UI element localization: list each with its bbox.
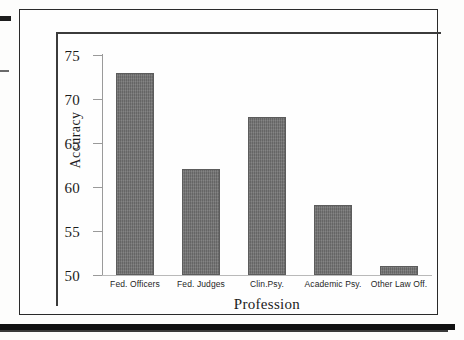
- bar-fed-judges[interactable]: [182, 169, 220, 275]
- bar-slot: Academic Psy.: [300, 55, 366, 275]
- scan-artifact-mark-top: [0, 16, 11, 21]
- bar-slot: Other Law Off.: [366, 55, 432, 275]
- figure-frame: Accuracy 75 70 65 60 55 50 Fed. Officers: [19, 9, 438, 315]
- y-tick-label-50: 50: [64, 267, 80, 284]
- scan-artifact-mark-middle: [0, 70, 9, 72]
- bar-fed-officers[interactable]: [116, 73, 154, 275]
- bar-slot: Clin.Psy.: [234, 55, 300, 275]
- bars-layer: Fed. Officers Fed. Judges Clin.Psy. Acad…: [102, 55, 432, 275]
- bar-slot: Fed. Officers: [102, 55, 168, 275]
- y-tick-60: 60: [93, 187, 102, 188]
- axis-stub-artifact: [56, 290, 58, 306]
- plot-frame-left-rule: [56, 32, 58, 306]
- bar-clin-psy[interactable]: [248, 117, 286, 275]
- x-tick-label-other-law-off: Other Law Off.: [371, 279, 428, 289]
- bar-other-law-off[interactable]: [380, 266, 418, 275]
- plot-frame-top-rule: [56, 32, 441, 34]
- y-tick-label-65: 65: [64, 135, 80, 152]
- bar-slot: Fed. Judges: [168, 55, 234, 275]
- y-tick-75: 75: [93, 55, 102, 56]
- y-tick-label-55: 55: [64, 223, 80, 240]
- x-tick-label-clin-psy: Clin.Psy.: [250, 279, 284, 289]
- x-tick-label-fed-judges: Fed. Judges: [177, 279, 225, 289]
- x-tick-label-academic-psy: Academic Psy.: [305, 279, 362, 289]
- y-tick-70: 70: [93, 99, 102, 100]
- x-axis-title: Profession: [102, 296, 432, 313]
- bar-academic-psy[interactable]: [314, 205, 352, 275]
- x-tick-label-fed-officers: Fed. Officers: [110, 279, 160, 289]
- x-axis-line: [102, 275, 432, 276]
- y-tick-label-70: 70: [64, 91, 80, 108]
- page-bottom-rule-artifact: [0, 324, 455, 330]
- y-tick-50: 50: [93, 275, 102, 276]
- y-tick-label-75: 75: [64, 47, 80, 64]
- y-tick-65: 65: [93, 143, 102, 144]
- y-tick-label-60: 60: [64, 179, 80, 196]
- y-tick-55: 55: [93, 231, 102, 232]
- plot-area: 75 70 65 60 55 50 Fed. Officers Fed. Jud…: [102, 55, 432, 275]
